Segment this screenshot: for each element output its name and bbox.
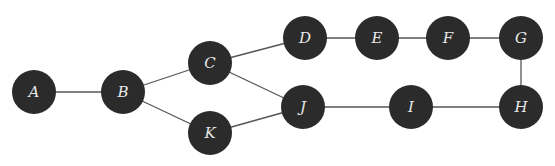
node-label: C <box>204 54 216 72</box>
graph-diagram: ABCKDJEFGIH <box>0 0 555 166</box>
node-label: F <box>442 29 454 47</box>
node-k: K <box>188 111 232 155</box>
node-i: I <box>389 85 433 129</box>
node-label: G <box>515 29 527 47</box>
node-label: E <box>371 29 383 47</box>
node-c: C <box>188 41 232 85</box>
node-a: A <box>12 70 56 114</box>
node-g: G <box>499 16 543 60</box>
node-f: F <box>426 16 470 60</box>
node-e: E <box>355 16 399 60</box>
node-d: D <box>283 16 327 60</box>
nodes: ABCKDJEFGIH <box>12 16 543 155</box>
node-label: D <box>298 29 311 47</box>
node-b: B <box>101 70 145 114</box>
node-j: J <box>281 85 325 129</box>
node-label: A <box>27 83 40 101</box>
node-h: H <box>499 85 543 129</box>
node-label: B <box>116 83 128 101</box>
node-label: K <box>203 124 216 142</box>
node-label: I <box>407 98 415 116</box>
node-label: H <box>513 98 528 116</box>
